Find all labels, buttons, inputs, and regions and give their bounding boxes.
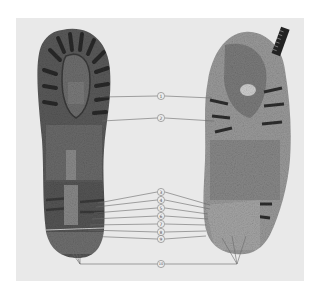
callout-6: 6 (160, 214, 163, 219)
callout-3: 3 (160, 190, 163, 195)
figure-illustration: 1 2 3 4 5 6 7 8 9 10 (0, 0, 319, 296)
callout-1: 1 (160, 94, 163, 99)
boot-sole (30, 20, 120, 270)
callout-10: 10 (159, 262, 164, 266)
sole-impression (200, 25, 295, 265)
callout-4: 4 (160, 198, 163, 203)
callout-9: 9 (160, 237, 163, 242)
callout-8: 8 (160, 230, 163, 235)
callout-5: 5 (160, 206, 163, 211)
scale-ruler (272, 27, 290, 56)
callout-2: 2 (160, 116, 163, 121)
callout-7: 7 (160, 222, 163, 227)
